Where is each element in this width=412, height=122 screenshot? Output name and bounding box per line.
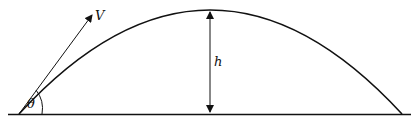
height-label: h [214,55,222,68]
projectile-diagram: V θ h [0,0,412,122]
diagram-canvas [0,0,412,122]
velocity-label: V [95,9,104,22]
angle-label: θ [27,97,35,110]
